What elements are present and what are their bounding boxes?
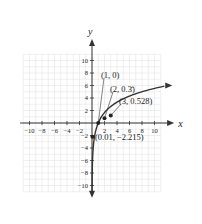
data-point [96,121,100,125]
curve-arrow-icon [165,82,172,88]
data-point [109,114,113,118]
data-point [103,116,107,120]
x-axis-arrow-icon [167,120,174,126]
y-tick-label: 2 [85,107,88,114]
y-tick-label: −10 [78,182,88,189]
point-label: (2, 0.3̄) [110,84,135,94]
point-label: (1, 0) [101,70,120,80]
data-point [90,135,94,139]
y-axis-arrow-icon [89,39,95,46]
x-tick-label: 10 [151,127,158,134]
x-axis-label: x [177,118,183,129]
y-tick-label: −2 [81,132,88,139]
point-label: (3, 0.528) [119,96,152,106]
function-graph: xy−10−8−6−4−2246810−10−8−6−4−2246810(1, … [0,0,202,224]
y-tick-label: −4 [81,144,89,151]
x-tick-label: −8 [39,127,46,134]
y-tick-label: −8 [81,169,88,176]
y-tick-label: −6 [81,157,89,164]
curve-arrow-down-icon [89,191,95,198]
point-label: (0.01, −2.215) [95,132,144,142]
x-tick-label: −4 [64,127,72,134]
y-tick-label: 10 [82,57,89,64]
x-tick-label: −10 [24,127,34,134]
y-axis-label: y [87,26,93,37]
x-tick-label: −6 [51,127,59,134]
y-tick-label: 8 [85,69,88,76]
